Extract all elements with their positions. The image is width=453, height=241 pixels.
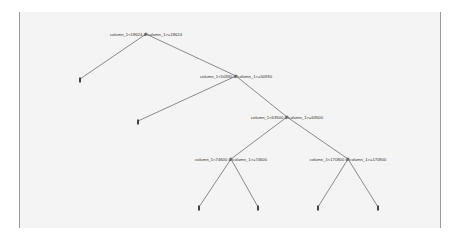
edge-n0-l0 xyxy=(80,34,146,79)
leaf-node-6[interactable] xyxy=(377,206,379,211)
leaf-node-3[interactable] xyxy=(198,206,200,211)
leaf-node-1[interactable] xyxy=(79,78,81,83)
tree-edges xyxy=(0,0,453,241)
leaf-node-2[interactable] xyxy=(137,120,139,125)
edge-n1-n2 xyxy=(236,76,287,117)
node-label-2: column_1<50930 & column_1>=50930 xyxy=(200,74,272,79)
edge-n3-l3 xyxy=(231,159,258,207)
node-label-4: column_1<74600 & column_1>=74600 xyxy=(195,157,267,162)
node-label-root: column_1<18624 & column_1>=18624 xyxy=(110,32,182,37)
edge-n2-n4 xyxy=(287,117,348,159)
leaf-node-5[interactable] xyxy=(317,206,319,211)
node-label-5: column_1<170800 & column_1>=170800 xyxy=(310,157,387,162)
edge-n4-l5 xyxy=(348,159,378,207)
edge-n2-n3 xyxy=(231,117,287,159)
edge-n0-n1 xyxy=(146,34,236,76)
leaf-node-4[interactable] xyxy=(257,206,259,211)
edge-n4-l4 xyxy=(318,159,348,207)
edge-n1-l1 xyxy=(138,76,236,121)
edge-n3-l2 xyxy=(199,159,231,207)
node-label-3: column_1<63500 & column_1>=63500 xyxy=(251,115,323,120)
